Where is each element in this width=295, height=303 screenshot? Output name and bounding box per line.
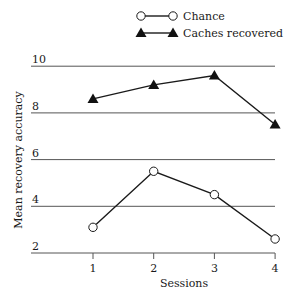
y-axis-label: Mean recovery accuracy [12,91,25,229]
open-circle-marker [150,167,158,175]
open-circle-marker [137,12,145,20]
series [88,70,281,243]
open-circle-marker [169,12,177,20]
y-axis-ticks: 246810 [32,53,46,253]
y-tick-label: 2 [32,240,39,253]
x-tick-label: 3 [211,262,218,275]
legend: ChanceCaches recovered [136,10,283,40]
x-axis-label: Sessions [160,277,209,290]
line-chart: ChanceCaches recovered 246810 1234 Mean … [0,0,295,303]
series-chance [89,167,279,243]
y-tick-label: 8 [32,100,39,113]
filled-triangle-marker [209,70,220,80]
filled-triangle-line-icon [136,28,179,38]
y-tick-label: 4 [32,193,39,206]
open-circle-marker [210,190,218,198]
series-caches-recovered [88,70,281,129]
filled-triangle-marker [270,119,281,129]
open-circle-marker [89,223,97,231]
open-circle-marker [271,235,279,243]
filled-triangle-marker [168,28,179,38]
series-line [93,76,275,125]
legend-item: Chance [137,10,225,23]
x-tick-label: 1 [90,262,97,275]
x-tick-label: 4 [272,262,279,275]
legend-item: Caches recovered [136,27,283,40]
x-axis: 1234 [90,253,279,275]
series-line [93,171,275,239]
legend-label: Caches recovered [183,27,283,40]
x-tick-label: 2 [150,262,157,275]
legend-label: Chance [183,10,225,23]
filled-triangle-marker [136,28,147,38]
y-tick-label: 6 [32,147,39,160]
open-circle-line-icon [137,12,177,20]
y-tick-label: 10 [32,53,46,66]
